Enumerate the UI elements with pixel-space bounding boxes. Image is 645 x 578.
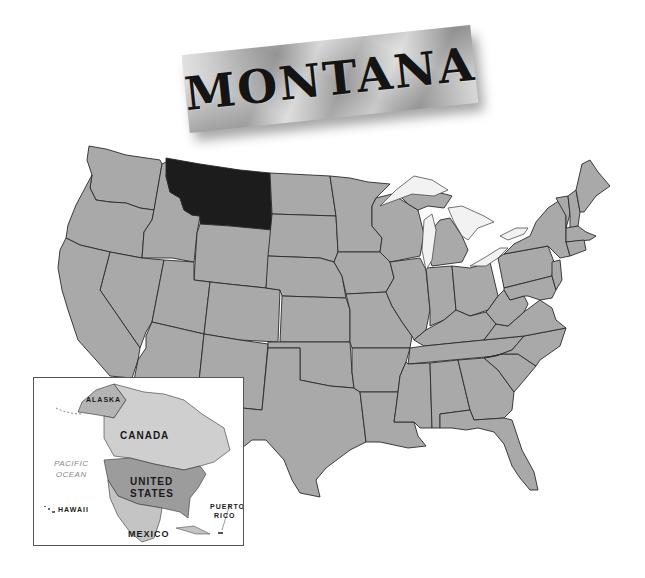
inset-locator-map: ALASKA CANADA UNITED STATES MEXICO HAWAI… [33,377,244,546]
inset-hawaii-islands [44,506,55,513]
state-kansas[interactable] [280,296,350,342]
label-mexico: MEXICO [128,529,170,539]
state-north-dakota[interactable] [270,173,336,216]
state-maine[interactable] [576,160,610,212]
label-puerto-rico-line2: RICO [214,511,236,520]
label-united-states-line2: STATES [130,488,174,500]
state-florida[interactable] [440,410,538,490]
state-wyoming[interactable] [194,224,272,288]
state-south-dakota[interactable] [268,214,338,262]
label-puerto-rico-line1: PUERTO [210,502,244,511]
label-united-states-line1: UNITED [130,476,173,488]
inset-puerto-rico [218,532,223,534]
label-pacific-ocean: PACIFIC OCEAN [54,458,88,480]
inset-cuba [176,526,210,534]
lake-ontario [500,228,528,240]
state-massachusetts[interactable] [566,226,596,242]
state-connecticut[interactable] [566,240,586,256]
label-ocean-line1: PACIFIC [54,458,88,469]
label-ocean-line2: OCEAN [54,469,88,480]
state-colorado[interactable] [204,282,280,342]
label-hawaii: HAWAII [58,506,89,513]
label-canada: CANADA [120,430,169,441]
label-alaska: ALASKA [86,396,121,403]
